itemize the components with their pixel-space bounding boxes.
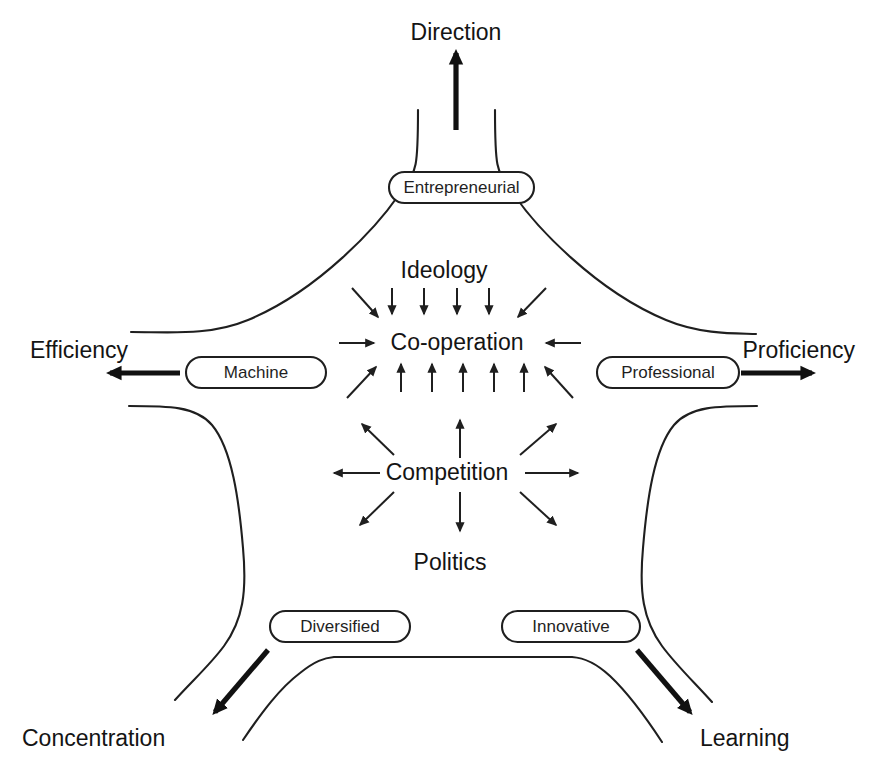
cooperation-diagonal-arrow-right [545,367,573,398]
form-label-diversified: Diversified [300,617,379,636]
form-label-entrepreneurial: Entrepreneurial [403,178,519,197]
outline-bottom-right-edge [437,657,662,742]
center-label-competition: Competition [386,459,509,485]
concentration-arrow [215,650,268,712]
pentagon-diagram-svg: Entrepreneurial Machine Professional Div… [0,0,883,767]
diagram-canvas: Entrepreneurial Machine Professional Div… [0,0,883,767]
competition-arrow-down-left [360,492,394,525]
outer-label-proficiency: Proficiency [743,337,856,363]
outline-top-left-edge [131,110,418,332]
outer-label-efficiency: Efficiency [30,337,129,363]
form-label-innovative: Innovative [532,617,610,636]
outer-label-learning: Learning [700,725,790,751]
outer-label-concentration: Concentration [22,725,165,751]
form-label-professional: Professional [621,363,715,382]
center-label-politics: Politics [414,549,487,575]
cooperation-diagonal-arrow-left [347,367,376,398]
center-label-cooperation: Co-operation [391,329,524,355]
outline-left-lower-edge [129,406,244,700]
form-label-machine: Machine [224,363,288,382]
ideology-diagonal-arrow-right [518,288,546,317]
outline-bottom-left-edge [243,657,437,740]
learning-arrow [637,650,690,712]
outline-right-lower-edge [642,406,757,702]
competition-arrow-down-right [520,492,556,525]
competition-arrow-up-left [362,424,394,455]
center-label-ideology: Ideology [401,257,488,283]
competition-arrow-up-right [520,424,556,455]
outer-label-direction: Direction [411,19,502,45]
ideology-diagonal-arrow-left [352,288,378,317]
